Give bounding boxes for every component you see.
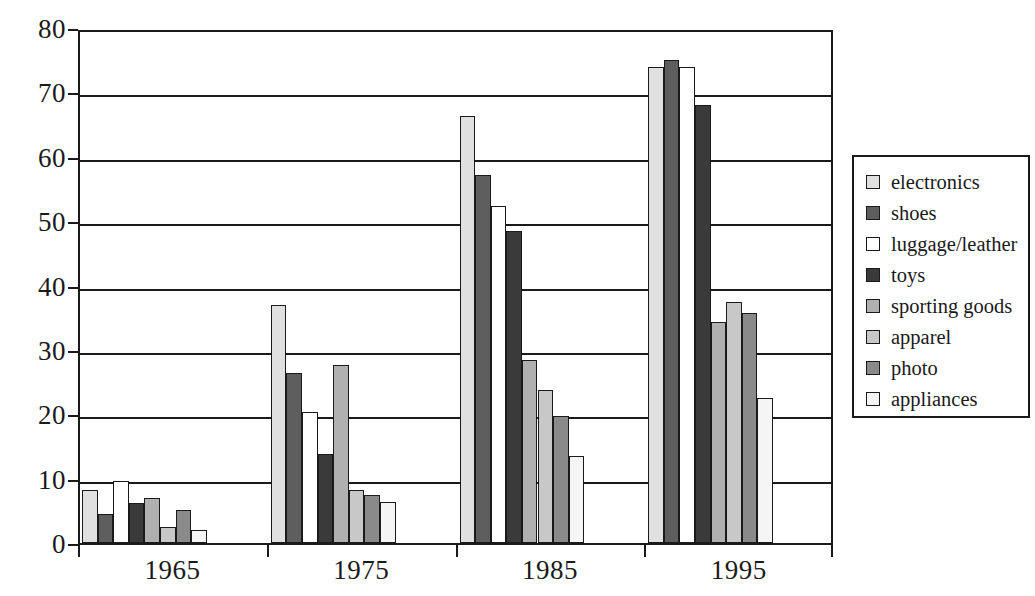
bar [679, 67, 695, 543]
legend-item-photo[interactable]: photo [866, 353, 1028, 383]
bar [569, 456, 585, 543]
bar [191, 530, 207, 543]
legend-swatch-icon [866, 237, 880, 251]
x-axis-tick-label: 1985 [456, 556, 645, 586]
bar [318, 454, 334, 543]
bar [349, 490, 365, 543]
y-axis-tick-label: 40 [8, 274, 66, 301]
plot-area [78, 30, 833, 545]
x-axis-tick-label: 1995 [644, 556, 833, 586]
bar [475, 175, 491, 543]
y-axis-tick-mark [68, 480, 78, 482]
bar [364, 495, 380, 543]
legend-swatch-icon [866, 175, 880, 189]
y-axis-tick-mark [68, 158, 78, 160]
legend-item-sporting-goods[interactable]: sporting goods [866, 291, 1028, 321]
bar [286, 373, 302, 543]
y-axis-tick-mark [68, 222, 78, 224]
bar [491, 206, 507, 543]
legend-item-apparel[interactable]: apparel [866, 322, 1028, 352]
y-axis: 01020304050607080 [0, 0, 66, 596]
legend-swatch-icon [866, 330, 880, 344]
x-axis-labels: 1965197519851995 [78, 556, 833, 592]
legend-item-label: photo [891, 358, 938, 379]
bar [553, 416, 569, 543]
legend-item-label: toys [891, 265, 925, 286]
bar [380, 502, 396, 543]
legend-item-appliances[interactable]: appliances [866, 384, 1028, 414]
bar [129, 503, 145, 543]
y-axis-tick-mark [68, 544, 78, 546]
legend-swatch-icon [866, 299, 880, 313]
legend-item-label: sporting goods [891, 296, 1012, 317]
legend-item-shoes[interactable]: shoes [866, 198, 1028, 228]
bar [538, 390, 554, 543]
y-axis-tick-mark [68, 287, 78, 289]
bar [726, 302, 742, 543]
y-axis-tick-mark [68, 415, 78, 417]
legend-item-label: luggage/leather [891, 234, 1017, 255]
bar [82, 490, 98, 543]
bar [333, 365, 349, 543]
bar [742, 313, 758, 543]
legend-item-toys[interactable]: toys [866, 260, 1028, 290]
bar [757, 398, 773, 543]
bars-layer [80, 32, 831, 543]
legend-item-electronics[interactable]: electronics [866, 167, 1028, 197]
legend-item-label: appliances [891, 389, 978, 410]
bar [271, 305, 287, 543]
bar [695, 105, 711, 543]
y-axis-tick-label: 70 [8, 80, 66, 107]
y-axis-tick-label: 60 [8, 145, 66, 172]
bar [113, 481, 129, 543]
y-axis-tick-label: 50 [8, 209, 66, 236]
legend-swatch-icon [866, 392, 880, 406]
y-axis-tick-label: 0 [8, 531, 66, 558]
y-axis-tick-mark [68, 93, 78, 95]
y-axis-tick-label: 10 [8, 467, 66, 494]
bar [522, 360, 538, 543]
y-axis-tick-mark [68, 29, 78, 31]
y-axis-tick-label: 80 [8, 16, 66, 43]
legend-item-label: apparel [891, 327, 951, 348]
legend-swatch-icon [866, 206, 880, 220]
legend-swatch-icon [866, 361, 880, 375]
y-axis-tick-mark [68, 351, 78, 353]
bar [144, 498, 160, 543]
bar [98, 514, 114, 543]
bar [648, 67, 664, 543]
legend-item-label: electronics [891, 172, 980, 193]
legend-item-luggage-leather[interactable]: luggage/leather [866, 229, 1028, 259]
bar [460, 116, 476, 543]
legend-item-label: shoes [891, 203, 937, 224]
bar [664, 60, 680, 543]
bar [160, 527, 176, 543]
legend-swatch-icon [866, 268, 880, 282]
bar [302, 412, 318, 543]
bar-chart: 01020304050607080 1965197519851995 elect… [0, 0, 1035, 596]
bar [711, 322, 727, 543]
bar [506, 231, 522, 543]
x-axis-tick-label: 1975 [267, 556, 456, 586]
y-axis-tick-label: 30 [8, 338, 66, 365]
chart-legend: electronicsshoesluggage/leathertoyssport… [852, 155, 1030, 418]
bar [176, 510, 192, 543]
x-axis-tick-label: 1965 [78, 556, 267, 586]
y-axis-tick-label: 20 [8, 402, 66, 429]
